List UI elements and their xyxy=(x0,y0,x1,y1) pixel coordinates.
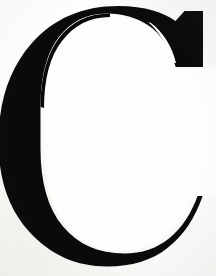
letter-glyph-layer: C xyxy=(0,0,216,276)
letter-c-svg: C xyxy=(0,0,216,276)
image-canvas: C xyxy=(0,0,216,276)
